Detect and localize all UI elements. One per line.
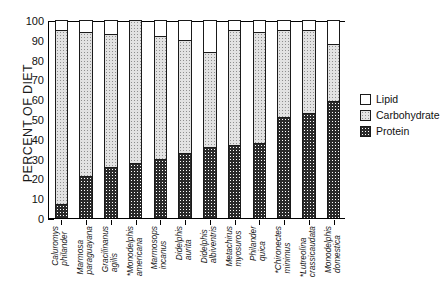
- bar-segment-lipid: [302, 20, 316, 30]
- x-tick-mark: [136, 220, 137, 225]
- legend-swatch-icon: [360, 126, 371, 137]
- bar-6: [178, 20, 192, 218]
- bar-11: [302, 20, 316, 218]
- bar-segment-protein: [104, 167, 118, 218]
- legend-label: Lipid: [376, 93, 398, 105]
- x-tick-mark: [210, 220, 211, 225]
- x-category-label: Metachirusmyosuros: [224, 226, 244, 302]
- y-tick-label: 40: [32, 134, 44, 145]
- y-tick-label: 60: [32, 95, 44, 106]
- bar-segment-lipid: [228, 20, 242, 30]
- y-tick-label: 70: [32, 75, 44, 86]
- bar-segment-protein: [228, 145, 242, 218]
- x-category-label: Monodelphisdomestica: [323, 226, 343, 302]
- legend-label: Protein: [376, 125, 409, 137]
- bar-segment-protein: [253, 143, 267, 218]
- x-category-line: aurita: [184, 226, 193, 260]
- x-category-text: *Lutreolinacrassicaudata: [299, 226, 317, 277]
- x-tick-mark: [61, 220, 62, 225]
- y-tick-label: 0: [38, 214, 44, 225]
- bar-segment-protein: [55, 204, 69, 218]
- bar-segment-protein: [154, 159, 168, 218]
- legend-swatch-icon: [360, 94, 371, 105]
- x-tick-mark: [334, 220, 335, 225]
- x-category-text: *Chironectesminimus: [274, 226, 292, 274]
- x-category-label: *Monodelphisamericana: [125, 226, 145, 302]
- bar-segment-carbohydrate: [154, 36, 168, 159]
- x-category-text: Didelphisaurita: [175, 226, 193, 260]
- bar-segment-lipid: [178, 20, 192, 40]
- bar-8: [228, 20, 242, 218]
- legend: LipidCarbohydrateProtein: [360, 93, 440, 141]
- bar-segment-protein: [129, 163, 143, 218]
- x-category-line: americana: [135, 226, 144, 276]
- x-category-line: agilis: [110, 226, 119, 272]
- x-category-label: *Chironectesminimus: [273, 226, 293, 302]
- bar-segment-carbohydrate: [277, 30, 291, 117]
- bar-segment-protein: [203, 147, 217, 218]
- bar-12: [327, 20, 341, 218]
- bar-segment-protein: [79, 176, 93, 218]
- bar-segment-lipid: [79, 20, 93, 32]
- x-tick-mark: [235, 220, 236, 225]
- bar-4: [129, 20, 143, 218]
- bar-segment-protein: [178, 153, 192, 218]
- x-category-line: domestica: [333, 226, 342, 273]
- x-tick-mark: [86, 220, 87, 225]
- bar-segment-carbohydrate: [327, 44, 341, 101]
- bar-segment-lipid: [55, 20, 69, 30]
- bar-segment-carbohydrate: [55, 30, 69, 204]
- x-tick-mark: [185, 220, 186, 225]
- x-category-text: Marmosopsincanus: [150, 226, 168, 269]
- bar-segment-protein: [277, 117, 291, 218]
- y-tick-label: 20: [32, 174, 44, 185]
- legend-swatch-icon: [360, 110, 371, 121]
- x-category-line: quica: [258, 226, 267, 261]
- x-category-text: Gracilinanusagilis: [101, 226, 119, 272]
- x-category-line: myosuros: [234, 226, 243, 267]
- x-category-label: Caluromysphilander: [50, 226, 70, 302]
- x-category-text: Metachirusmyosuros: [224, 226, 242, 267]
- x-category-text: Marmosaparaguayana: [76, 226, 94, 274]
- bar-9: [253, 20, 267, 218]
- bar-3: [104, 20, 118, 218]
- legend-item-protein: Protein: [360, 125, 440, 137]
- y-tick-label: 80: [32, 55, 44, 66]
- bar-segment-lipid: [203, 20, 217, 52]
- x-category-label: *Lutreolinacrassicaudata: [298, 226, 318, 302]
- x-tick-mark: [111, 220, 112, 225]
- bar-segment-carbohydrate: [228, 30, 242, 145]
- x-tick-mark: [259, 220, 260, 225]
- chart-figure: PERCENT OF DIET 0102030405060708090100 C…: [0, 0, 446, 302]
- bar-segment-lipid: [277, 20, 291, 30]
- y-tick-label: 30: [32, 154, 44, 165]
- x-category-label: Gracilinanusagilis: [100, 226, 120, 302]
- bar-1: [55, 20, 69, 218]
- x-tick-mark: [309, 220, 310, 225]
- x-tick-mark: [284, 220, 285, 225]
- y-tick-label: 100: [26, 16, 44, 27]
- x-category-text: Philanderquica: [249, 226, 267, 261]
- bar-segment-lipid: [253, 20, 267, 32]
- x-category-label: Philanderquica: [248, 226, 268, 302]
- x-axis-category-labels: CaluromysphilanderMarmosaparaguayanaGrac…: [48, 226, 345, 302]
- bar-segment-carbohydrate: [129, 20, 143, 163]
- y-tick-label: 50: [32, 115, 44, 126]
- x-category-line: crassicaudata: [308, 226, 317, 277]
- legend-item-lipid: Lipid: [360, 93, 440, 105]
- x-category-line: paraguayana: [85, 226, 94, 274]
- x-category-text: Caluromysphilander: [51, 226, 69, 266]
- x-category-line: incanus: [159, 226, 168, 269]
- bar-segment-lipid: [154, 20, 168, 36]
- x-category-text: Monodelphisdomestica: [323, 226, 341, 273]
- x-category-label: Marmosaparaguayana: [75, 226, 95, 302]
- bar-segment-carbohydrate: [203, 52, 217, 147]
- legend-item-carbohydrate: Carbohydrate: [360, 109, 440, 121]
- legend-label: Carbohydrate: [376, 109, 440, 121]
- y-tick-mark: [48, 219, 54, 220]
- bar-segment-carbohydrate: [79, 32, 93, 177]
- x-category-text: Didelphisalbiventris: [200, 226, 218, 263]
- y-tick-label: 10: [32, 194, 44, 205]
- x-category-label: Didelphisalbiventris: [199, 226, 219, 302]
- x-category-line: albiventris: [209, 226, 218, 263]
